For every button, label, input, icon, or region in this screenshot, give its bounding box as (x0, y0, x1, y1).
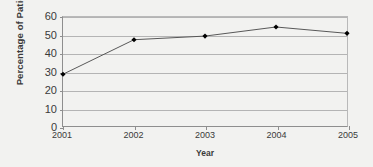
x-axis-title: Year (62, 148, 348, 158)
y-tick-label: 40 (17, 48, 57, 59)
plot-area (62, 16, 348, 127)
x-tick-label: 2001 (40, 131, 84, 140)
x-tick-label: 2002 (112, 131, 156, 140)
x-tick-label: 2004 (255, 131, 299, 140)
x-tick-label: 2005 (326, 131, 370, 140)
y-tick-label: 60 (17, 11, 57, 22)
y-tick-label: 20 (17, 85, 57, 96)
data-point-marker (273, 24, 278, 29)
y-tick-label: 50 (17, 30, 57, 41)
data-series (63, 17, 347, 126)
data-point-marker (131, 37, 136, 42)
data-point-marker (202, 34, 207, 39)
x-tick-label: 2003 (183, 131, 227, 140)
line-chart: Percentage of Patients 0102030405060 200… (0, 0, 373, 167)
y-tick-label: 30 (17, 67, 57, 78)
data-point-marker (344, 31, 349, 36)
y-tick-label: 10 (17, 104, 57, 115)
